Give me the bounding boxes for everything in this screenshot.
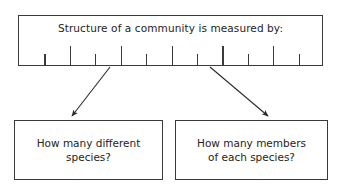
ruler-tick [299,54,300,65]
ruler-tick [197,54,198,65]
ruler-tick [172,46,173,65]
branch-right-line1: How many members [197,137,306,149]
ruler-tick [273,46,274,65]
branch-left-line2: species? [66,151,111,163]
arrow-to-left-box [72,67,110,116]
concept-diagram: Structure of a community is measured by:… [0,0,342,192]
ruler-tick [248,54,249,65]
branch-left-line1: How many different [37,137,141,149]
arrow-to-right-box [210,67,268,116]
branch-box-right-label: How many members of each species? [191,136,312,164]
ruler-tick [95,54,96,65]
branch-box-left-label: How many different species? [31,136,147,164]
ruler-tick [222,46,223,65]
branch-box-right: How many members of each species? [175,120,328,180]
ruler-tick [121,46,122,65]
branch-right-line2: of each species? [208,151,295,163]
ruler-tick [146,54,147,65]
root-concept-label: Structure of a community is measured by: [19,22,322,35]
ruler-tick [70,46,71,65]
ruler-tick-marks [19,43,322,65]
root-concept-box: Structure of a community is measured by: [18,15,323,66]
ruler-tick [44,54,45,65]
branch-box-left: How many different species? [14,120,163,180]
